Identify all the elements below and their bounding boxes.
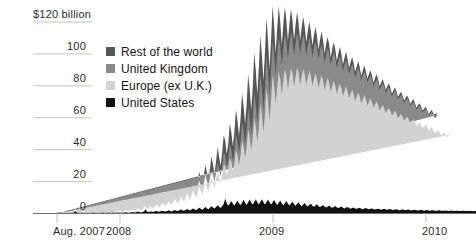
- y-tick-label-40: 40: [0, 136, 88, 148]
- legend-item-europe-ex-u-k: Europe (ex U.K.): [106, 77, 213, 94]
- y-tick-label-80: 80: [0, 72, 88, 84]
- y-tick-label-20: 20: [0, 168, 88, 180]
- stacked-area-plot: [0, 0, 476, 250]
- legend-label: Rest of the world: [121, 45, 213, 59]
- legend-label: Europe (ex U.K.): [121, 79, 212, 93]
- legend-label: United States: [121, 96, 194, 110]
- x-tick-group: [57, 214, 426, 223]
- legend-swatch-icon: [106, 81, 115, 90]
- legend-item-united-states: United States: [106, 94, 213, 111]
- legend-swatch-icon: [106, 64, 115, 73]
- legend-swatch-icon: [106, 47, 115, 56]
- legend-label: United Kingdom: [121, 62, 208, 76]
- x-tick-label-2008: 2008: [106, 225, 131, 237]
- legend-item-united-kingdom: United Kingdom: [106, 60, 213, 77]
- legend-swatch-icon: [106, 98, 115, 107]
- x-tick-label-2010: 2010: [422, 225, 447, 237]
- chart-container: $120 billion100806040200 Aug. 2007200820…: [0, 0, 476, 250]
- y-tick-label-120: $120 billion: [33, 8, 153, 20]
- y-tick-label-0: 0: [0, 200, 88, 212]
- x-tick-label-Aug-2007: Aug. 2007: [53, 225, 105, 237]
- y-tick-label-100: 100: [0, 40, 88, 52]
- y-tick-label-60: 60: [0, 104, 88, 116]
- x-tick-label-2009: 2009: [259, 225, 284, 237]
- legend-item-rest-of-the-world: Rest of the world: [106, 43, 213, 60]
- chart-legend: Rest of the worldUnited KingdomEurope (e…: [106, 43, 213, 111]
